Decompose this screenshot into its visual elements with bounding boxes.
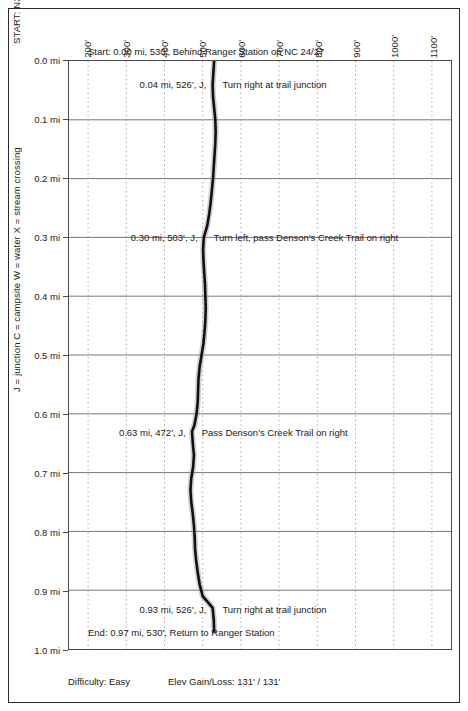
y-tick-1: 1.0 mi <box>34 645 60 656</box>
x-tick-1100: 1100' <box>428 36 439 58</box>
annotation-note-waypoint-063: Pass Denson's Creek Trail on right <box>202 426 348 437</box>
annotation-measure-waypoint-093: 0.93 mi, 526', J, <box>0 603 206 614</box>
annotation-end: End: 0.97 mi, 530', Return to Ranger Sta… <box>88 627 275 638</box>
annotation-measure-waypoint-063: 0.63 mi, 472', J, <box>0 426 186 437</box>
annotation-note-waypoint-093: Turn right at trail junction <box>222 603 326 614</box>
elevation-profile-chart <box>69 61 451 649</box>
annotation-measure-waypoint-030: 0.30 mi, 503', J, <box>0 232 198 243</box>
elevation-gain-loss-label: Elev Gain/Loss: 131' / 131' <box>168 676 280 687</box>
difficulty-label: Difficulty: Easy <box>68 676 130 687</box>
y-tick-0-8: 0.8 mi <box>34 527 60 538</box>
annotation-note-waypoint-030: Turn left, pass Denson's Creek Trail on … <box>214 232 399 243</box>
annotation-measure-waypoint-004: 0.04 mi, 526', J, <box>0 78 206 89</box>
elevation-plot-area <box>68 60 452 650</box>
y-tick-0-9: 0.9 mi <box>34 586 60 597</box>
annotation-note-waypoint-004: Turn right at trail junction <box>222 78 326 89</box>
x-tick-1000: 1000' <box>389 35 400 58</box>
y-tick-0: 0.0 mi <box>34 55 60 66</box>
elevation-profile-page: START: N35.36210 W79.86276 UTM 17 S 6033… <box>0 0 468 711</box>
y-tick-0-5: 0.5 mi <box>34 350 60 361</box>
y-tick-0-6: 0.6 mi <box>34 409 60 420</box>
x-tick-900: 900' <box>351 40 362 58</box>
y-tick-0-1: 0.1 mi <box>34 114 60 125</box>
y-tick-mark <box>63 650 68 651</box>
annotation-start: Start: 0.00 mi, 530', Behind Ranger Stat… <box>88 46 324 57</box>
y-tick-0-7: 0.7 mi <box>34 468 60 479</box>
y-tick-0-4: 0.4 mi <box>34 291 60 302</box>
y-tick-0-2: 0.2 mi <box>34 173 60 184</box>
